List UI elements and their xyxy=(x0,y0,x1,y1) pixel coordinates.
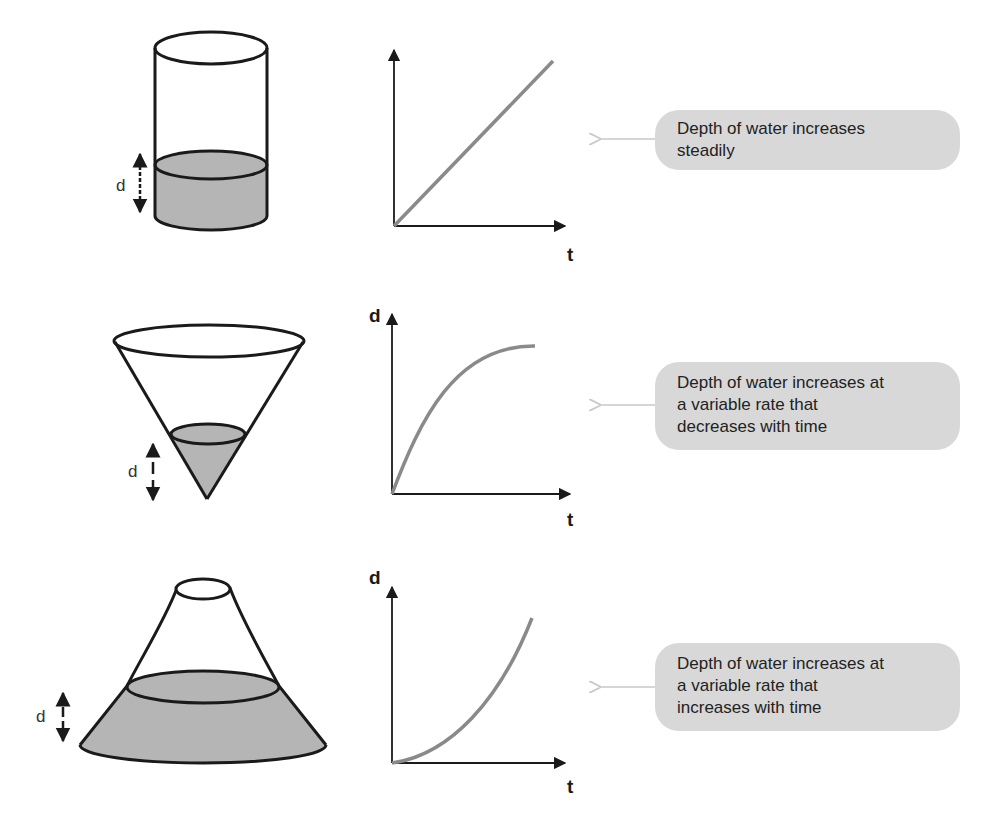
graph-curve xyxy=(392,618,532,763)
graph-curve xyxy=(392,346,535,494)
y-axis-label: d xyxy=(369,567,381,588)
x-axis-label: t xyxy=(567,776,574,797)
depth-label: d xyxy=(128,462,137,481)
callout-line: Depth of water increases at xyxy=(677,372,942,394)
callout-steady: Depth of water increases steadily xyxy=(655,110,960,170)
callout-line: Depth of water increases at xyxy=(677,653,942,675)
callout-increasing-rate: Depth of water increases at a variable r… xyxy=(655,643,960,731)
graph-linear xyxy=(394,50,565,226)
callout-line: steadily xyxy=(677,140,942,162)
callout-line: a variable rate that xyxy=(677,675,942,697)
y-axis-label: d xyxy=(369,305,381,326)
graph-concave-up xyxy=(392,587,565,763)
graph-concave-down xyxy=(392,314,570,494)
x-axis-label: t xyxy=(567,509,574,530)
callout-line: a variable rate that xyxy=(677,394,942,416)
callout-decreasing-rate: Depth of water increases at a variable r… xyxy=(655,362,960,450)
inverted-cone-container xyxy=(114,325,304,499)
depth-label: d xyxy=(116,176,125,195)
graph-curve xyxy=(394,61,553,226)
callout-line: decreases with time xyxy=(677,416,942,438)
x-axis-label: t xyxy=(567,244,574,265)
callout-line: increases with time xyxy=(677,697,942,719)
cylinder-container xyxy=(155,32,267,230)
frustum-container xyxy=(80,579,326,763)
callout-line: Depth of water increases xyxy=(677,118,942,140)
depth-label: d xyxy=(36,707,45,726)
